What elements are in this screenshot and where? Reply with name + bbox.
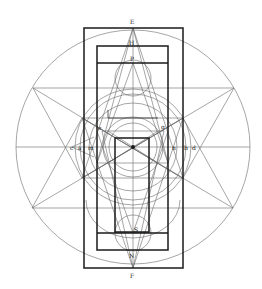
center-point	[131, 145, 135, 149]
label-P: P	[130, 55, 134, 62]
label-e: e	[98, 124, 102, 131]
label-H: H	[129, 39, 134, 46]
label-F: F	[130, 272, 134, 279]
label-m: m	[88, 144, 94, 151]
label-S: S	[134, 226, 138, 233]
label-g: g	[161, 123, 165, 131]
label-n: n	[172, 144, 176, 151]
label-E: E	[130, 18, 134, 25]
label-d: d	[192, 144, 196, 151]
geometric-diagram: E H P e g c a m n b d S N F	[0, 0, 262, 289]
label-N: N	[129, 252, 134, 259]
label-a: a	[78, 144, 82, 151]
label-b: b	[184, 144, 188, 151]
